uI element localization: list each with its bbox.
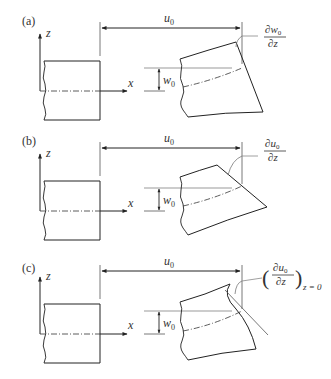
w0-label: w0: [163, 316, 175, 332]
angle-denominator: ∂z: [268, 37, 278, 49]
panel-b: (b) z x u0 w0: [22, 131, 286, 240]
panel-c: (c) z x u0 w0: [22, 254, 322, 363]
u0-label: u0: [164, 131, 174, 147]
tangent-line: [225, 290, 268, 335]
angle-denominator: ∂z: [276, 275, 286, 287]
deformed-centerline: [183, 311, 242, 331]
undeformed-segment-a: [40, 61, 100, 120]
z-axis-label: z: [45, 269, 51, 283]
paren-open: (: [262, 265, 269, 290]
break-line: [43, 61, 46, 120]
axes-a: z x: [40, 26, 134, 91]
deformed-segment-c: [180, 284, 268, 360]
x-axis-label: x: [127, 196, 134, 210]
beam-deformation-diagram: (a) z x u0 w0: [0, 0, 331, 379]
x-axis-label: x: [127, 76, 134, 90]
z-axis-label: z: [45, 146, 51, 160]
break-line: [43, 304, 46, 363]
shear-angle-c: ( ∂u0 ∂z ) z = 0: [235, 261, 322, 294]
angle-numerator: ∂w0: [265, 23, 282, 37]
angle-numerator: ∂u0: [273, 261, 288, 275]
deformed-segment-b: [180, 165, 267, 235]
panel-label-a: (a): [22, 14, 35, 28]
u0-label: u0: [164, 254, 174, 270]
u0-dimension-a: u0: [100, 11, 242, 64]
paren-close: ): [295, 265, 302, 290]
panel-label-c: (c): [22, 261, 35, 275]
panel-label-b: (b): [22, 134, 36, 148]
u0-dimension-b: u0: [100, 131, 242, 184]
w0-dimension-a: w0: [144, 68, 232, 91]
z-axis-label: z: [45, 26, 51, 40]
u0-label: u0: [164, 11, 174, 27]
x-axis-label: x: [127, 318, 134, 332]
undeformed-segment-b: [40, 181, 100, 240]
evaluation-condition: z = 0: [302, 282, 322, 292]
deformed-centerline: [183, 186, 242, 206]
w0-label: w0: [163, 73, 175, 89]
u0-dimension-c: u0: [100, 254, 242, 309]
deformed-centerline: [183, 68, 242, 87]
shear-angle-b: ∂u0 ∂z: [228, 137, 286, 175]
axes-c: z x: [40, 269, 134, 334]
angle-denominator: ∂z: [268, 151, 278, 163]
rotation-angle-a: ∂w0 ∂z: [236, 23, 286, 49]
undeformed-segment-c: [40, 304, 100, 363]
w0-label: w0: [163, 193, 175, 209]
panel-a: (a) z x u0 w0: [22, 11, 286, 120]
w0-dimension-b: w0: [144, 188, 232, 211]
w0-dimension-c: w0: [144, 311, 232, 334]
angle-numerator: ∂u0: [265, 137, 280, 151]
break-line: [43, 181, 46, 240]
deformed-segment-a: [180, 42, 263, 117]
axes-b: z x: [40, 146, 134, 211]
